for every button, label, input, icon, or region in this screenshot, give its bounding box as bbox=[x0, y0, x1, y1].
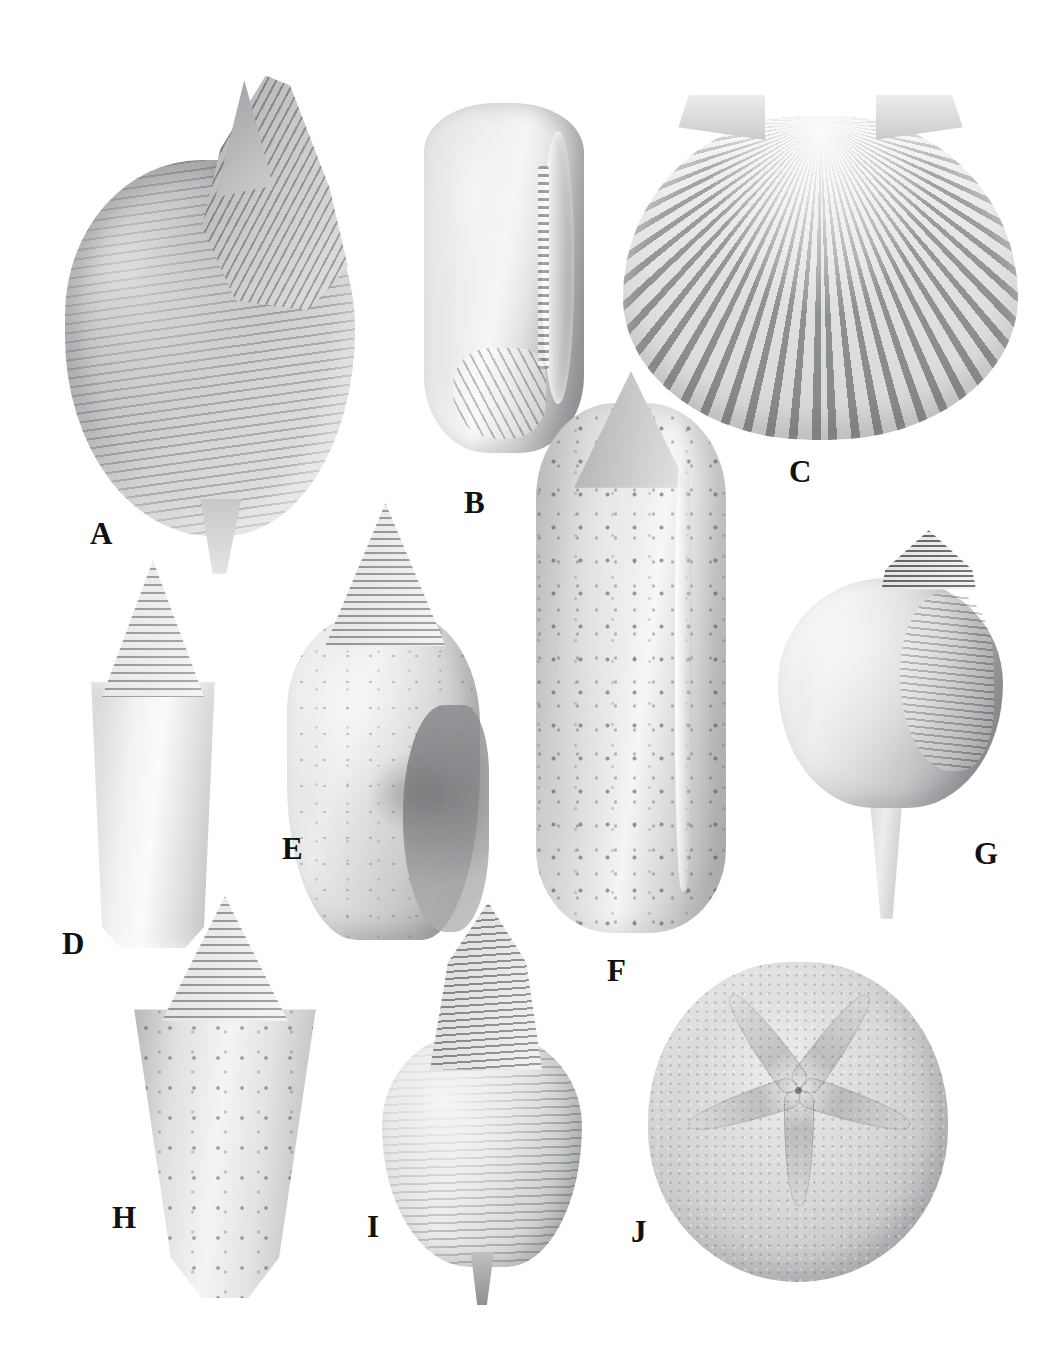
specimen-i-spire bbox=[430, 902, 542, 1069]
specimen-i-ribbed-spired-whelk bbox=[382, 910, 582, 1290]
specimen-e-encrustation bbox=[403, 705, 489, 932]
specimen-label-f: F bbox=[607, 955, 626, 986]
specimen-a-ribbed-whelk-shell bbox=[58, 85, 403, 555]
specimen-c-valve-disc bbox=[623, 116, 1018, 440]
specimen-c-right-auricle bbox=[876, 95, 963, 140]
specimen-c-left-auricle bbox=[678, 95, 765, 140]
specimen-label-d: D bbox=[62, 928, 85, 959]
specimen-f-speckled-olive-shell bbox=[536, 403, 726, 933]
specimen-j-echinoid-sand-dollar-test bbox=[648, 962, 948, 1282]
specimen-g-turreted-spire bbox=[882, 530, 977, 589]
specimen-label-j: J bbox=[631, 1216, 647, 1247]
specimen-plate: A B C D E F bbox=[0, 0, 1058, 1349]
specimen-label-c: C bbox=[789, 456, 812, 487]
specimen-g-pear-shaped-whelk bbox=[778, 534, 1003, 904]
specimen-label-e: E bbox=[282, 833, 303, 864]
specimen-b-columellar-folds bbox=[453, 348, 546, 439]
specimen-h-large-cone-shell-speckled bbox=[120, 908, 330, 1298]
specimen-h-spire bbox=[162, 896, 288, 1021]
specimen-label-b: B bbox=[464, 487, 485, 518]
specimen-e-conch-shell-encrusted bbox=[278, 520, 493, 940]
specimen-label-h: H bbox=[112, 1202, 137, 1233]
specimen-e-spire bbox=[325, 503, 445, 646]
specimen-j-petal bbox=[787, 987, 880, 1099]
specimen-label-i: I bbox=[367, 1211, 380, 1242]
specimen-f-columella bbox=[675, 445, 692, 890]
specimen-c-scallop-pecten-valve bbox=[623, 95, 1018, 440]
specimen-d-spire bbox=[102, 560, 204, 697]
specimen-h-colour-pattern bbox=[128, 1009, 321, 1298]
specimen-b-olive-shell-aperture-view bbox=[424, 103, 584, 453]
specimen-label-g: G bbox=[974, 838, 999, 869]
specimen-label-a: A bbox=[90, 518, 113, 549]
specimen-j-apical-system bbox=[795, 1087, 802, 1094]
specimen-b-denticles bbox=[538, 166, 549, 369]
specimen-d-cone-shell-smooth bbox=[73, 568, 233, 948]
